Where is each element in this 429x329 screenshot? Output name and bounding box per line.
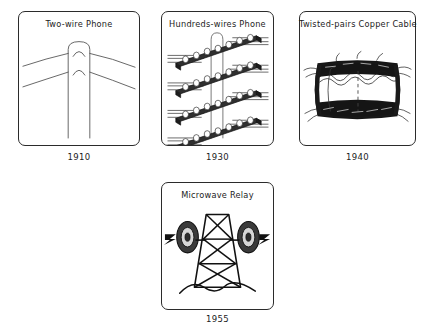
- ground-line: [180, 283, 256, 293]
- twisted-pairs-copper-cable-illustration: [300, 12, 415, 145]
- panel-two-wire-phone: [18, 11, 140, 146]
- panel-year-1930: 1930: [161, 152, 274, 162]
- panel-twisted-pairs-copper-cable: [299, 11, 416, 146]
- panel-microwave-relay: [161, 182, 274, 310]
- panel-title-microwave-relay: Microwave Relay: [161, 190, 274, 200]
- signal-bolt-right: [258, 234, 270, 245]
- panel-year-1940: 1940: [299, 152, 416, 162]
- figure-canvas: Two-wire Phone 1910: [0, 0, 429, 329]
- microwave-relay-illustration: [162, 183, 273, 309]
- panel-title-hundreds-wires-phone: Hundreds-wires Phone: [161, 19, 274, 29]
- panel-title-two-wire-phone: Two-wire Phone: [18, 19, 140, 29]
- two-wire-phone-illustration: [19, 12, 139, 145]
- dish-antenna-left: [177, 221, 206, 252]
- panel-hundreds-wires-phone: [161, 11, 274, 146]
- dish-antenna-right: [230, 221, 259, 252]
- panel-title-twisted-pairs-copper-cable: Twisted-pairs Copper Cable: [299, 19, 416, 29]
- panel-year-1910: 1910: [18, 152, 140, 162]
- signal-bolt-left: [164, 234, 176, 245]
- panel-year-1955: 1955: [161, 314, 274, 324]
- hundreds-wires-phone-illustration: [162, 12, 273, 145]
